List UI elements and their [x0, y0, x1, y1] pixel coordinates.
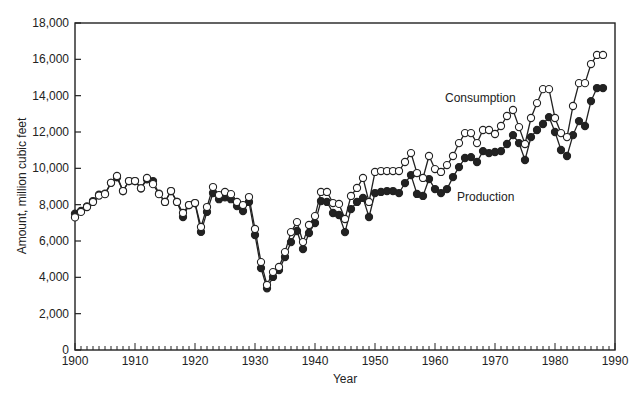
x-tick-label: 1930 [242, 354, 269, 368]
open-circle-marker [509, 106, 516, 113]
open-circle-marker [335, 200, 342, 207]
y-axis-title: Amount, million cubic feet [15, 117, 29, 254]
open-circle-marker [587, 60, 594, 67]
open-circle-marker [467, 129, 474, 136]
open-circle-marker [179, 209, 186, 216]
open-circle-marker [299, 238, 306, 245]
x-tick-label: 1990 [602, 354, 629, 368]
open-circle-marker [71, 214, 78, 221]
open-circle-marker [77, 208, 84, 215]
open-circle-marker [167, 187, 174, 194]
open-circle-marker [251, 225, 258, 232]
open-circle-marker [569, 102, 576, 109]
filled-circle-marker [575, 118, 582, 125]
x-tick-label: 1970 [482, 354, 509, 368]
open-circle-marker [359, 174, 366, 181]
open-circle-marker [137, 185, 144, 192]
open-circle-marker [341, 215, 348, 222]
open-circle-marker [269, 268, 276, 275]
x-tick-label: 1960 [422, 354, 449, 368]
y-tick-label: 14,000 [32, 89, 69, 103]
filled-circle-marker [365, 213, 372, 220]
series-layer [71, 51, 606, 291]
y-tick-label: 4,000 [39, 270, 69, 284]
y-tick-label: 16,000 [32, 52, 69, 66]
open-circle-marker [275, 263, 282, 270]
open-circle-marker [515, 123, 522, 130]
open-circle-marker [101, 191, 108, 198]
x-tick-label: 1950 [362, 354, 389, 368]
legend-label-production: Production [457, 190, 514, 204]
filled-circle-marker [419, 192, 426, 199]
open-circle-marker [533, 100, 540, 107]
open-circle-marker [503, 112, 510, 119]
open-circle-marker [203, 203, 210, 210]
filled-circle-marker [527, 133, 534, 140]
filled-circle-marker [581, 122, 588, 129]
y-tick-label: 6,000 [39, 234, 69, 248]
open-circle-marker [155, 191, 162, 198]
open-circle-marker [239, 201, 246, 208]
filled-circle-marker [341, 228, 348, 235]
open-circle-marker [545, 86, 552, 93]
y-tick-label: 2,000 [39, 307, 69, 321]
open-circle-marker [83, 203, 90, 210]
filled-circle-marker [533, 126, 540, 133]
y-tick-label: 10,000 [32, 161, 69, 175]
open-circle-marker [497, 122, 504, 129]
filled-circle-marker [443, 185, 450, 192]
open-circle-marker [257, 258, 264, 265]
x-tick-label: 1910 [122, 354, 149, 368]
open-circle-marker [473, 139, 480, 146]
legend-label-consumption: Consumption [445, 91, 516, 105]
x-axis: 1900191019201930194019501960197019801990 [62, 343, 629, 368]
series-production [71, 84, 606, 291]
y-tick-label: 8,000 [39, 198, 69, 212]
open-circle-marker [209, 183, 216, 190]
x-tick-label: 1920 [182, 354, 209, 368]
open-circle-marker [353, 184, 360, 191]
open-circle-marker [131, 177, 138, 184]
open-circle-marker [323, 188, 330, 195]
filled-circle-marker [503, 140, 510, 147]
open-circle-marker [437, 168, 444, 175]
filled-circle-marker [539, 120, 546, 127]
open-circle-marker [161, 198, 168, 205]
open-circle-marker [149, 181, 156, 188]
filled-circle-marker [401, 179, 408, 186]
filled-circle-marker [473, 158, 480, 165]
open-circle-marker [443, 161, 450, 168]
open-circle-marker [449, 152, 456, 159]
x-tick-label: 1940 [302, 354, 329, 368]
open-circle-marker [365, 198, 372, 205]
filled-circle-marker [521, 156, 528, 163]
open-circle-marker [305, 221, 312, 228]
open-circle-marker [401, 158, 408, 165]
filled-circle-marker [599, 84, 606, 91]
x-tick-label: 1980 [542, 354, 569, 368]
open-circle-marker [563, 133, 570, 140]
open-circle-marker [107, 179, 114, 186]
filled-circle-marker [449, 173, 456, 180]
open-circle-marker [419, 174, 426, 181]
open-circle-marker [407, 149, 414, 156]
open-circle-marker [581, 80, 588, 87]
open-circle-marker [191, 199, 198, 206]
open-circle-marker [113, 172, 120, 179]
filled-circle-marker [455, 163, 462, 170]
open-circle-marker [311, 213, 318, 220]
open-circle-marker [281, 248, 288, 255]
open-circle-marker [413, 169, 420, 176]
y-tick-label: 12,000 [32, 125, 69, 139]
open-circle-marker [491, 130, 498, 137]
x-axis-title: Year [333, 372, 357, 386]
filled-circle-marker [509, 131, 516, 138]
open-circle-marker [197, 223, 204, 230]
x-tick-label: 1900 [62, 354, 89, 368]
open-circle-marker [119, 187, 126, 194]
open-circle-marker [173, 198, 180, 205]
y-tick-label: 18,000 [32, 16, 69, 30]
open-circle-marker [455, 139, 462, 146]
open-circle-marker [263, 281, 270, 288]
y-axis: 02,0004,0006,0008,00010,00012,00014,0001… [32, 16, 81, 357]
